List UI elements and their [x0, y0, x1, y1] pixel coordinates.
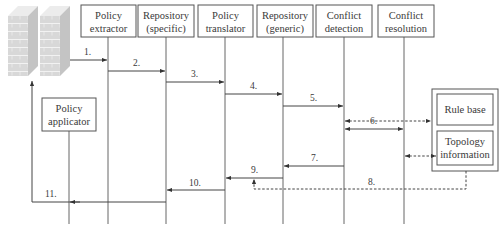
svg-text:resolution: resolution: [385, 23, 428, 34]
participant-conflict-resolution: Conflict resolution: [378, 5, 434, 37]
participant-repository-generic: Repository (generic): [257, 5, 313, 37]
svg-text:(specific): (specific): [146, 23, 186, 35]
svg-text:6.: 6.: [370, 116, 377, 126]
svg-text:Policy: Policy: [56, 103, 84, 114]
firewall-icon: [40, 6, 70, 76]
rule-base-box: Rule base: [437, 94, 493, 125]
svg-text:Rule base: Rule base: [444, 104, 485, 115]
firewall-icon: [8, 6, 38, 76]
participant-policy-applicator: Policy applicator: [42, 98, 96, 131]
svg-text:Policy: Policy: [212, 10, 240, 21]
data-store: Rule base Topology information: [432, 89, 498, 171]
participant-repository-specific: Repository (specific): [138, 5, 194, 37]
svg-text:1.: 1.: [84, 47, 91, 57]
svg-text:detection: detection: [325, 23, 364, 34]
message-3: 3.: [166, 69, 224, 82]
svg-text:2.: 2.: [133, 58, 140, 68]
svg-text:11.: 11.: [45, 189, 57, 199]
message-9: 9.: [226, 165, 283, 178]
message-4: 4.: [225, 81, 282, 94]
svg-text:Topology: Topology: [445, 136, 486, 147]
svg-text:4.: 4.: [250, 81, 257, 91]
svg-text:3.: 3.: [191, 69, 198, 79]
svg-text:8.: 8.: [368, 177, 375, 187]
message-7: 7.: [284, 153, 344, 166]
svg-text:Conflict: Conflict: [389, 10, 423, 21]
svg-text:Conflict: Conflict: [327, 10, 361, 21]
message-8: 8.: [254, 171, 466, 189]
svg-text:extractor: extractor: [90, 23, 128, 34]
svg-text:Repository: Repository: [262, 10, 309, 21]
svg-text:translator: translator: [206, 23, 246, 34]
participant-policy-translator: Policy translator: [198, 5, 253, 37]
sequence-diagram: Policy extractor Repository (specific) P…: [0, 0, 501, 226]
participant-conflict-detection: Conflict detection: [316, 5, 372, 37]
svg-text:7.: 7.: [311, 153, 318, 163]
message-6: 6.: [345, 116, 403, 129]
svg-text:Policy: Policy: [95, 10, 123, 21]
message-1: 1.: [70, 47, 107, 60]
participant-policy-extractor: Policy extractor: [81, 5, 136, 37]
svg-text:information: information: [440, 149, 490, 160]
svg-text:Repository: Repository: [143, 10, 190, 21]
svg-text:10.: 10.: [189, 178, 201, 188]
svg-text:(generic): (generic): [266, 23, 304, 35]
svg-text:9.: 9.: [251, 165, 258, 175]
svg-text:5.: 5.: [310, 93, 317, 103]
topology-information-box: Topology information: [437, 131, 493, 165]
message-5: 5.: [283, 93, 343, 106]
svg-text:applicator: applicator: [48, 116, 90, 127]
message-2: 2.: [108, 58, 165, 71]
message-10: 10.: [167, 178, 225, 190]
